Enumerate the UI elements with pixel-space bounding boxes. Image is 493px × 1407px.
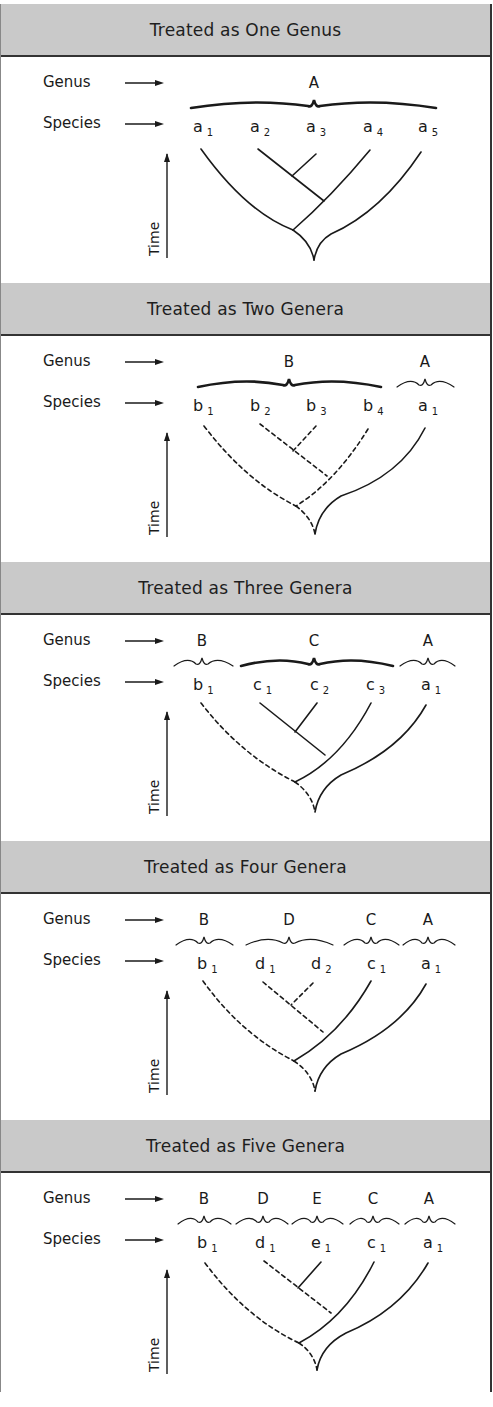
time-axis-label: Time bbox=[146, 501, 162, 536]
species-label: c1 bbox=[367, 954, 386, 975]
arrowhead-icon bbox=[155, 679, 164, 685]
species-label: b2 bbox=[250, 396, 271, 417]
lineage-branch bbox=[201, 149, 293, 230]
cladogram: GenusSpeciesTimeAa1a2a3a4a5 bbox=[1, 57, 490, 283]
panel-body: GenusSpeciesTimeBDCAb1d1d2c1a1 bbox=[1, 894, 490, 1120]
cladogram: GenusSpeciesTimeBDECAb1d1e1c1a1 bbox=[1, 1173, 490, 1399]
panel-body: GenusSpeciesTimeAa1a2a3a4a5 bbox=[1, 57, 490, 283]
panel-2: Treated as Two Genera GenusSpeciesTimeBA… bbox=[1, 283, 490, 562]
arrowhead-icon bbox=[155, 80, 164, 86]
genus-label: B bbox=[199, 911, 209, 929]
extinct-lineage-branch bbox=[293, 426, 316, 451]
genus-label: A bbox=[420, 353, 431, 371]
species-label: a4 bbox=[363, 117, 383, 138]
extinct-lineage-branch bbox=[296, 429, 368, 506]
species-label: c1 bbox=[253, 675, 272, 696]
species-label: b4 bbox=[363, 396, 384, 417]
panel-title: Treated as One Genus bbox=[1, 4, 490, 57]
panel-3: Treated as Three Genera GenusSpeciesTime… bbox=[1, 562, 490, 841]
genus-brace-icon bbox=[292, 1216, 343, 1224]
genus-brace-icon bbox=[397, 379, 454, 387]
cladogram: GenusSpeciesTimeBAb1b2b3b4a1 bbox=[1, 336, 490, 562]
species-label: e1 bbox=[311, 1233, 331, 1254]
cladogram: GenusSpeciesTimeBDCAb1d1d2c1a1 bbox=[1, 894, 490, 1120]
arrowhead-icon bbox=[155, 958, 164, 964]
genus-label: E bbox=[312, 1190, 321, 1208]
panel-4: Treated as Four Genera GenusSpeciesTimeB… bbox=[1, 841, 490, 1120]
genus-brace-icon bbox=[236, 1216, 288, 1224]
lineage-branch bbox=[294, 981, 371, 1061]
time-axis-label: Time bbox=[146, 1059, 162, 1094]
extinct-lineage-branch bbox=[299, 1343, 317, 1370]
genus-label: A bbox=[424, 1190, 435, 1208]
genus-brace-icon bbox=[241, 658, 393, 666]
extinct-lineage-branch bbox=[295, 782, 315, 812]
lineage-branch bbox=[295, 703, 371, 782]
species-row-label: Species bbox=[43, 672, 101, 690]
species-label: a1 bbox=[423, 1233, 443, 1254]
genus-label: D bbox=[257, 1190, 269, 1208]
lineage-branch bbox=[315, 984, 426, 1091]
arrowhead-icon bbox=[164, 1269, 170, 1278]
genus-label: B bbox=[284, 353, 294, 371]
lineage-branch bbox=[295, 703, 317, 732]
species-label: c3 bbox=[366, 675, 385, 696]
genus-row-label: Genus bbox=[43, 73, 91, 91]
panel-title: Treated as Two Genera bbox=[1, 283, 490, 336]
species-label: b1 bbox=[193, 396, 214, 417]
species-row-label: Species bbox=[43, 393, 101, 411]
arrowhead-icon bbox=[155, 1196, 164, 1202]
species-row-label: Species bbox=[43, 1230, 101, 1248]
genus-brace-icon bbox=[198, 379, 381, 387]
arrowhead-icon bbox=[155, 917, 164, 923]
species-label: d1 bbox=[255, 954, 276, 975]
genus-brace-icon bbox=[350, 1216, 399, 1224]
genus-brace-icon bbox=[403, 937, 455, 945]
genus-brace-icon bbox=[405, 1216, 455, 1224]
species-row-label: Species bbox=[43, 951, 101, 969]
lineage-branch bbox=[314, 152, 421, 260]
genus-brace-icon bbox=[191, 100, 436, 108]
genus-brace-icon bbox=[246, 937, 333, 945]
extinct-lineage-branch bbox=[291, 983, 313, 1005]
lineage-branch bbox=[292, 154, 316, 176]
genus-label: A bbox=[423, 911, 434, 929]
genus-label: A bbox=[423, 632, 434, 650]
species-label: d1 bbox=[255, 1233, 276, 1254]
panel-title: Treated as Four Genera bbox=[1, 841, 490, 894]
arrowhead-icon bbox=[155, 121, 164, 127]
genus-row-label: Genus bbox=[43, 352, 91, 370]
arrowhead-icon bbox=[164, 990, 170, 999]
genus-brace-icon bbox=[176, 937, 233, 945]
extinct-lineage-branch bbox=[296, 506, 315, 534]
genus-brace-icon bbox=[178, 1216, 231, 1224]
arrowhead-icon bbox=[164, 711, 170, 720]
species-label: b3 bbox=[306, 396, 327, 417]
extinct-lineage-branch bbox=[264, 1261, 331, 1313]
genus-label: C bbox=[366, 911, 376, 929]
species-label: a1 bbox=[421, 675, 441, 696]
panel-1: Treated as One Genus GenusSpeciesTimeAa1… bbox=[1, 4, 490, 283]
genus-label: B bbox=[199, 1190, 209, 1208]
time-axis-label: Time bbox=[146, 780, 162, 815]
lineage-branch bbox=[298, 1262, 321, 1288]
arrowhead-icon bbox=[164, 432, 170, 441]
species-label: a5 bbox=[418, 117, 438, 138]
lineage-branch bbox=[315, 705, 426, 812]
genus-label: D bbox=[283, 911, 295, 929]
lineage-branch bbox=[317, 1263, 428, 1370]
arrowhead-icon bbox=[155, 638, 164, 644]
species-label: a1 bbox=[193, 117, 213, 138]
genus-brace-icon bbox=[174, 658, 233, 666]
panel-body: GenusSpeciesTimeBCAb1c1c2c3a1 bbox=[1, 615, 490, 841]
arrowhead-icon bbox=[155, 1237, 164, 1243]
panel-5: Treated as Five Genera GenusSpeciesTimeB… bbox=[1, 1120, 490, 1392]
time-axis-label: Time bbox=[146, 1338, 162, 1373]
genus-row-label: Genus bbox=[43, 910, 91, 928]
extinct-lineage-branch bbox=[204, 426, 296, 506]
genus-label: B bbox=[197, 632, 207, 650]
species-label: a1 bbox=[421, 954, 441, 975]
extinct-lineage-branch bbox=[294, 1061, 315, 1091]
genus-brace-icon bbox=[344, 937, 399, 945]
genus-row-label: Genus bbox=[43, 1189, 91, 1207]
